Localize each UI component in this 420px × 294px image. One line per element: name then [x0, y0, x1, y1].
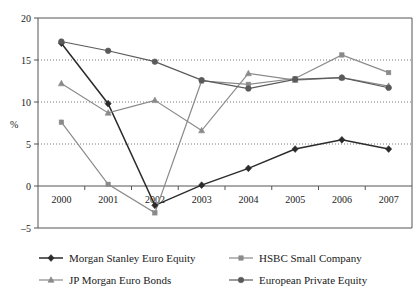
- data-point-1-7: [386, 70, 390, 74]
- series-line-3: [61, 42, 388, 89]
- data-point-2-0: [58, 80, 64, 86]
- y-tick-label: 20: [21, 13, 31, 24]
- x-tick-label: 2003: [192, 194, 212, 205]
- legend-label: Morgan Stanley Euro Equity: [69, 253, 196, 264]
- data-point-3-7: [386, 85, 392, 91]
- y-tick-labels-group: 20151050–5: [20, 13, 31, 234]
- legend-marker: [239, 256, 243, 260]
- x-tick-label: 2001: [98, 194, 118, 205]
- legend-label: HSBC Small Company: [259, 253, 362, 264]
- chart-plot-area: 20151050–5 20002001200220032004200520062…: [0, 0, 420, 240]
- x-tick-label: 2004: [238, 194, 258, 205]
- data-point-3-2: [152, 59, 158, 65]
- axes-group: [38, 18, 412, 228]
- legend-marker-icon: [228, 274, 254, 286]
- data-point-3-4: [246, 86, 252, 92]
- chart-figure: 20151050–5 20002001200220032004200520062…: [0, 0, 420, 294]
- x-tick-labels-group: 20002001200220032004200520062007: [51, 194, 398, 205]
- data-point-3-0: [59, 39, 65, 45]
- data-point-3-5: [292, 77, 298, 83]
- legend-marker: [48, 255, 54, 262]
- y-tick-label: 5: [26, 139, 31, 150]
- legend-label: European Private Equity: [259, 275, 367, 286]
- data-point-1-2: [153, 211, 157, 215]
- data-point-1-6: [340, 53, 344, 57]
- y-axis-label: %: [10, 119, 18, 130]
- data-point-3-1: [105, 48, 111, 54]
- legend-item: Morgan Stanley Euro Equity: [38, 252, 228, 264]
- legend-item: JP Morgan Euro Bonds: [38, 274, 228, 286]
- data-point-3-3: [199, 77, 205, 83]
- data-point-0-3: [199, 182, 205, 189]
- x-tick-label: 2007: [379, 194, 399, 205]
- data-point-2-4: [245, 70, 251, 76]
- legend-marker-icon: [38, 252, 64, 264]
- legend-marker-icon: [228, 252, 254, 264]
- data-point-1-1: [106, 182, 110, 186]
- data-point-1-0: [59, 120, 63, 124]
- x-tick-label: 2000: [51, 194, 71, 205]
- data-point-3-6: [339, 75, 345, 81]
- legend-marker: [238, 277, 244, 283]
- data-point-0-6: [339, 136, 345, 143]
- legend-label: JP Morgan Euro Bonds: [69, 275, 171, 286]
- data-point-0-5: [292, 146, 298, 153]
- series-line-0: [61, 43, 388, 205]
- legend-item: European Private Equity: [228, 274, 412, 286]
- legend-marker-icon: [38, 274, 64, 286]
- x-tick-label: 2005: [285, 194, 305, 205]
- y-tick-label: 10: [21, 97, 31, 108]
- data-point-0-4: [245, 165, 251, 172]
- x-tick-label: 2006: [332, 194, 352, 205]
- y-tick-label: 15: [21, 55, 31, 66]
- data-point-2-2: [152, 97, 158, 103]
- data-point-0-7: [386, 146, 392, 153]
- y-tick-label: –5: [20, 223, 31, 234]
- legend-item: HSBC Small Company: [228, 252, 412, 264]
- chart-legend: Morgan Stanley Euro EquityHSBC Small Com…: [38, 247, 412, 291]
- line-chart-svg: 20151050–5 20002001200220032004200520062…: [0, 0, 420, 240]
- y-tick-label: 0: [26, 181, 31, 192]
